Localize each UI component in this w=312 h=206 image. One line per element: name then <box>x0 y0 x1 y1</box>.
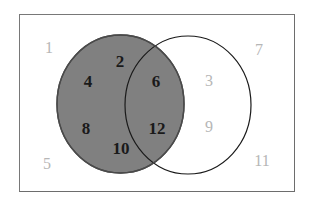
venn-circles-group <box>0 0 312 206</box>
number-label-11: 11 <box>254 153 269 169</box>
number-label-1: 1 <box>45 40 53 56</box>
number-label-7: 7 <box>255 42 263 58</box>
number-label-8: 8 <box>82 120 91 137</box>
number-label-6: 6 <box>152 73 161 90</box>
number-label-5: 5 <box>43 156 51 172</box>
number-label-10: 10 <box>113 140 130 157</box>
number-label-12: 12 <box>149 120 166 137</box>
number-label-3: 3 <box>205 73 213 89</box>
venn-diagram-figure: 152481061239711 <box>0 0 312 206</box>
number-label-4: 4 <box>84 73 93 90</box>
number-label-9: 9 <box>205 119 213 135</box>
number-label-2: 2 <box>116 53 125 70</box>
